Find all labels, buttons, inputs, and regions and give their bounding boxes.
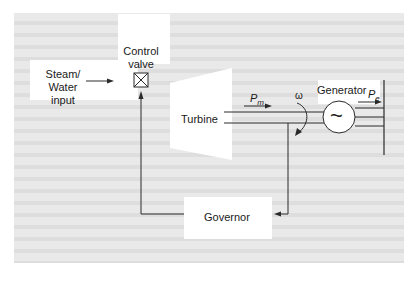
steam-input-label: Steam/ Water input [30, 68, 96, 107]
ac-sine-icon: ~ [330, 105, 343, 127]
electrical-power-symbol: Pe [368, 88, 380, 105]
control-valve-line2: valve [116, 58, 166, 71]
turbine-label: Turbine [181, 113, 218, 126]
mechanical-power-symbol: Pm [250, 92, 264, 109]
governor-label: Governor [204, 211, 250, 224]
generator-label: Generator [317, 84, 367, 97]
omega-symbol: ω [295, 89, 303, 102]
control-valve-line1: Control [116, 45, 166, 58]
steam-input-line1: Steam/ Water [30, 68, 96, 94]
turbine-governor-diagram [0, 0, 418, 284]
steam-input-line2: input [30, 94, 96, 107]
control-valve-label: Control valve [116, 45, 166, 71]
